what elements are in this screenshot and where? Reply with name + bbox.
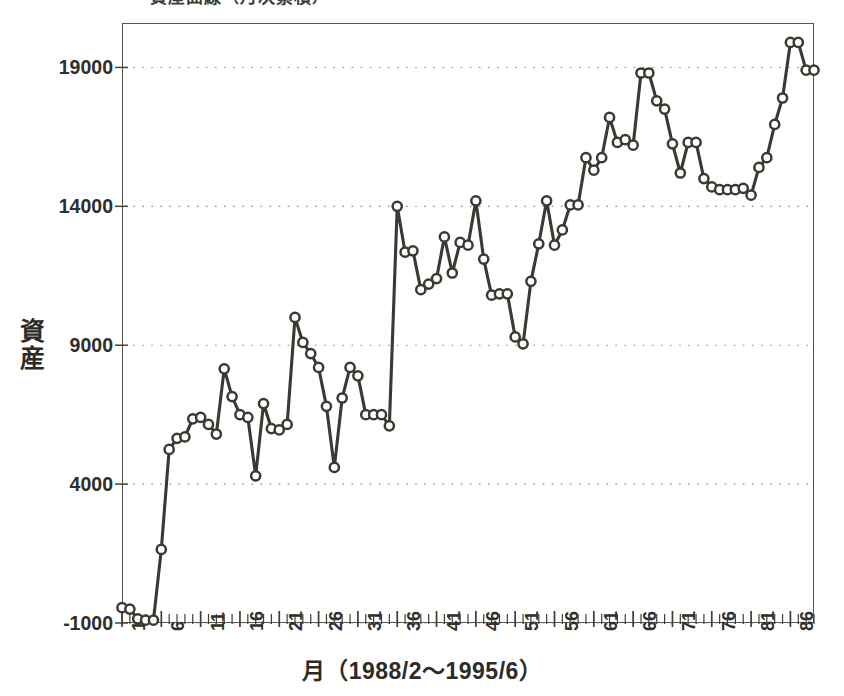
x-tick-label: 1 (129, 621, 150, 631)
x-tick-label: 76 (719, 611, 740, 631)
x-tick-label: 6 (168, 621, 189, 631)
x-tick-label: 41 (444, 611, 465, 631)
x-tick-label: 31 (365, 611, 386, 631)
x-tick-label: 51 (522, 611, 543, 631)
x-tick-label: 46 (483, 611, 504, 631)
x-tick-label: 56 (562, 611, 583, 631)
x-axis-ticks: 1611162126313641465156616671768186 (0, 0, 844, 696)
x-tick-label: 61 (601, 611, 622, 631)
x-tick-label: 11 (208, 612, 229, 631)
x-tick-label: 21 (286, 611, 307, 631)
x-tick-label: 26 (326, 611, 347, 631)
x-tick-label: 36 (404, 611, 425, 631)
chart-figure: 資産曲線（月次累積） 190001400090004000-1000 資産 16… (0, 0, 844, 696)
x-tick-label: 16 (247, 611, 268, 631)
x-tick-label: 66 (640, 611, 661, 631)
x-axis-label: 月（1988/2〜1995/6） (0, 652, 844, 686)
x-tick-label: 71 (679, 611, 700, 631)
x-tick-label: 86 (797, 611, 818, 631)
x-tick-label: 81 (758, 611, 779, 631)
